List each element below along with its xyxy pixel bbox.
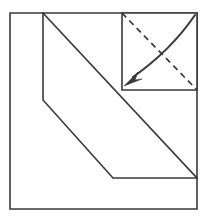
fold-diagram-canvas [0,0,207,223]
fold-diagram-figure [0,0,207,223]
